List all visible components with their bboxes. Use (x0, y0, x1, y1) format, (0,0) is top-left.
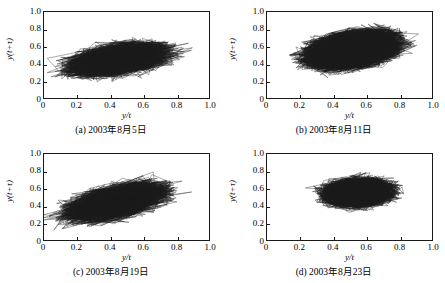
panel-c-y-ticks: 00.20.40.60.81.0 (16, 153, 41, 241)
panel-a-xtick-label: 0 (31, 100, 55, 110)
panel-c-ytick-label: 0.4 (19, 201, 41, 210)
panel-a-y-axis-label: y(t+τ) (4, 19, 14, 79)
panel-a-xtick-label: 0.4 (98, 100, 122, 110)
panel-a-xtick-mark (144, 95, 145, 98)
panel-b-xtick-mark (367, 95, 368, 98)
panel-b-xtick-label: 1.0 (421, 100, 445, 110)
panel-c-ytick-mark (44, 189, 47, 190)
panel-c-plot-area (43, 153, 210, 241)
panel-c-xtick-label: 0.8 (165, 242, 189, 252)
panel-c-xtick-mark (111, 237, 112, 240)
panel-b-ytick-mark (267, 82, 270, 83)
panel-a-xtick-mark (178, 95, 179, 98)
panel-d-xtick-label: 1.0 (421, 242, 445, 252)
panel-b-xtick-label: 0 (254, 100, 278, 110)
panel-a-plot-area (43, 11, 210, 99)
panel-c-xtick-label: 0.4 (98, 242, 122, 252)
panel-d-xtick-label: 0.8 (388, 242, 412, 252)
panel-b-xtick-mark (334, 95, 335, 98)
panel-a-xtick-label: 0.6 (131, 100, 155, 110)
panel-d-xtick-label: 0.4 (321, 242, 345, 252)
panel-c-xtick-mark (77, 237, 78, 240)
panel-c-ytick-mark (44, 224, 47, 225)
panel-a-ytick-mark (44, 30, 47, 31)
panel-d-x-axis-label: y/t (266, 252, 433, 262)
panel-d-ytick-mark (267, 207, 270, 208)
panel-c-xtick-label: 1.0 (198, 242, 222, 252)
panel-b-ytick-label: 0.8 (242, 24, 264, 33)
panel-c-ytick-label: 0.6 (19, 184, 41, 193)
panel-c-ytick-label: 0.8 (19, 166, 41, 175)
panel-b-xtick-label: 0.8 (388, 100, 412, 110)
panel-b-caption: (b) 2003年8月11日 (223, 122, 445, 136)
panel-a-x-axis-label: y/t (43, 110, 210, 120)
panel-d-caption: (d) 2003年8月23日 (223, 264, 445, 278)
panel-c-ytick-mark (44, 172, 47, 173)
panel-a-ytick-label: 0.2 (19, 77, 41, 86)
panel-c-ytick-mark (44, 207, 47, 208)
panel-d-ytick-label: 0.4 (242, 201, 264, 210)
panel-b-ytick-label: 0.4 (242, 59, 264, 68)
panel-d-ytick-mark (267, 224, 270, 225)
panel-b-ytick-label: 0.2 (242, 77, 264, 86)
panel-b-xtick-label: 0.6 (354, 100, 378, 110)
panel-d-y-ticks: 00.20.40.60.81.0 (239, 153, 264, 241)
panel-d-xtick-mark (367, 237, 368, 240)
panel-a-xtick-mark (77, 95, 78, 98)
panel-a-xtick-label: 0.8 (165, 100, 189, 110)
panel-d-ytick-label: 0.8 (242, 166, 264, 175)
panel-d-ytick-label: 0.2 (242, 219, 264, 228)
panel-a-caption: (a) 2003年8月5日 (0, 122, 222, 136)
panel-c-ytick-label: 1.0 (19, 149, 41, 158)
panel-d-ytick-label: 0.6 (242, 184, 264, 193)
panel-b: 00.20.40.60.81.0 00.20.40.60.81.0 y/t y(… (223, 0, 445, 141)
panel-b-xtick-mark (300, 95, 301, 98)
panel-c-xtick-mark (144, 237, 145, 240)
panel-a: 00.20.40.60.81.0 00.20.40.60.81.0 y/t y(… (0, 0, 222, 141)
panel-a-ytick-label: 0.6 (19, 42, 41, 51)
panel-b-xtick-label: 0.2 (287, 100, 311, 110)
panel-d-ytick-mark (267, 189, 270, 190)
panel-d-attractor (267, 154, 432, 240)
figure-container: 00.20.40.60.81.0 00.20.40.60.81.0 y/t y(… (0, 0, 445, 283)
panel-b-attractor (267, 12, 432, 98)
panel-b-x-axis-label: y/t (266, 110, 433, 120)
panel-d-xtick-mark (401, 237, 402, 240)
panel-d-ytick-label: 1.0 (242, 149, 264, 158)
panel-a-ytick-label: 1.0 (19, 7, 41, 16)
panel-d-xtick-mark (334, 237, 335, 240)
panel-c-caption: (c) 2003年8月19日 (0, 264, 222, 278)
panel-a-ytick-label: 0.8 (19, 24, 41, 33)
panel-d-xtick-label: 0.6 (354, 242, 378, 252)
panel-a-ytick-label: 0.4 (19, 59, 41, 68)
panel-c-ytick-label: 0.2 (19, 219, 41, 228)
panel-d-xtick-mark (300, 237, 301, 240)
panel-b-ytick-mark (267, 47, 270, 48)
panel-c-xtick-label: 0.2 (64, 242, 88, 252)
panel-b-ytick-label: 0.6 (242, 42, 264, 51)
panel-b-ytick-label: 1.0 (242, 7, 264, 16)
panel-a-xtick-label: 0.2 (64, 100, 88, 110)
panel-c: 00.20.40.60.81.0 00.20.40.60.81.0 y/t y(… (0, 142, 222, 283)
panel-b-ytick-mark (267, 65, 270, 66)
panel-c-x-axis-label: y/t (43, 252, 210, 262)
panel-c-attractor (44, 154, 209, 240)
panel-b-xtick-label: 0.4 (321, 100, 345, 110)
panel-c-y-axis-label: y(t+τ) (4, 161, 14, 221)
panel-b-ytick-mark (267, 30, 270, 31)
panel-a-xtick-mark (111, 95, 112, 98)
panel-b-xtick-mark (401, 95, 402, 98)
panel-d-xtick-label: 0.2 (287, 242, 311, 252)
panel-d-y-axis-label: y(t+τ) (227, 161, 237, 221)
panel-d-xtick-label: 0 (254, 242, 278, 252)
panel-a-ytick-mark (44, 65, 47, 66)
panel-d-plot-area (266, 153, 433, 241)
panel-a-ytick-mark (44, 47, 47, 48)
panel-a-y-ticks: 00.20.40.60.81.0 (16, 11, 41, 99)
panel-d-ytick-mark (267, 172, 270, 173)
panel-c-xtick-mark (178, 237, 179, 240)
panel-d: 00.20.40.60.81.0 00.20.40.60.81.0 y/t y(… (223, 142, 445, 283)
panel-b-y-ticks: 00.20.40.60.81.0 (239, 11, 264, 99)
panel-b-y-axis-label: y(t+τ) (227, 19, 237, 79)
panel-c-xtick-label: 0.6 (131, 242, 155, 252)
